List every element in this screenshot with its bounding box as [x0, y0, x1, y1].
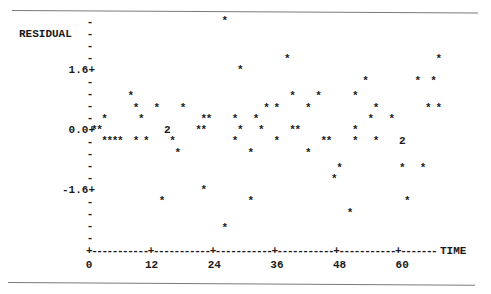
x-tick-label: 48 — [333, 260, 346, 271]
data-point: * — [174, 147, 181, 158]
data-point: * — [206, 113, 213, 124]
data-point: * — [248, 147, 255, 158]
data-point: * — [289, 91, 296, 102]
y-axis-tick-mark: - — [87, 149, 94, 160]
data-point: * — [435, 102, 442, 113]
y-axis-tick-mark: - — [87, 41, 94, 52]
data-point: * — [138, 113, 145, 124]
double-data-point: 2 — [399, 136, 406, 147]
data-point: * — [347, 207, 354, 218]
y-axis-tick-mark: - — [87, 161, 94, 172]
y-axis-tick-mark: - — [87, 197, 94, 208]
x-tick-label: 0 — [86, 260, 93, 271]
data-point: * — [232, 136, 239, 147]
top-rule — [12, 10, 478, 13]
data-point: * — [420, 162, 427, 173]
y-axis-tick-mark: - — [87, 77, 94, 88]
data-point: * — [331, 173, 338, 184]
data-point: * — [373, 136, 380, 147]
x-axis-line: +-----------+-----------+-----------+---… — [86, 246, 436, 257]
data-point: * — [425, 102, 432, 113]
x-tick-label: 24 — [208, 260, 221, 271]
data-point: * — [154, 102, 161, 113]
data-point: * — [399, 162, 406, 173]
data-point: * — [221, 222, 228, 233]
y-axis-tick-mark: - — [87, 113, 94, 124]
data-point: * — [352, 91, 359, 102]
y-axis-tick-mark: - — [87, 233, 94, 244]
data-point: * — [430, 76, 437, 87]
y-axis-label: RESIDUAL — [19, 29, 72, 40]
data-point: * — [352, 136, 359, 147]
data-point: * — [336, 162, 343, 173]
data-point: * — [237, 65, 244, 76]
data-point: * — [415, 76, 422, 87]
data-point: * — [368, 113, 375, 124]
data-point: * — [274, 102, 281, 113]
data-point: * — [263, 102, 270, 113]
data-point: * — [274, 136, 281, 147]
data-point: * — [133, 136, 140, 147]
data-point: * — [294, 125, 301, 136]
data-point: * — [237, 125, 244, 136]
data-point: * — [201, 185, 208, 196]
data-point: * — [388, 113, 395, 124]
x-tick-label: 36 — [270, 260, 283, 271]
y-axis-tick-mark: - — [87, 173, 94, 184]
y-tick-label: -1.6+ — [62, 185, 95, 196]
data-point: * — [180, 102, 187, 113]
y-axis-tick-mark: - — [87, 221, 94, 232]
data-point: * — [143, 136, 150, 147]
x-tick-label: 60 — [396, 260, 409, 271]
data-point: * — [362, 76, 369, 87]
data-point: * — [248, 196, 255, 207]
bottom-rule — [8, 282, 475, 286]
data-point: * — [117, 136, 124, 147]
y-axis-tick-mark: - — [87, 209, 94, 220]
data-point: * — [373, 102, 380, 113]
data-point: * — [258, 125, 265, 136]
y-axis-tick-mark: - — [87, 53, 94, 64]
y-axis-tick-mark: - — [87, 29, 94, 40]
data-point: * — [159, 196, 166, 207]
data-point: * — [201, 125, 208, 136]
data-point: * — [404, 196, 411, 207]
data-point: * — [315, 91, 322, 102]
y-tick-label: 1.6+ — [69, 65, 95, 76]
y-axis-tick-mark: - — [87, 17, 94, 28]
data-point: * — [305, 102, 312, 113]
y-axis-tick-mark: - — [87, 89, 94, 100]
data-point: * — [101, 113, 108, 124]
data-point: * — [435, 53, 442, 64]
y-axis-tick-mark: - — [87, 101, 94, 112]
data-point: * — [284, 53, 291, 64]
data-point: * — [305, 147, 312, 158]
data-point: * — [326, 136, 333, 147]
x-axis-label: TIME — [440, 246, 466, 257]
data-point: * — [221, 16, 228, 27]
y-axis-tick-mark: - — [87, 137, 94, 148]
x-tick-label: 12 — [145, 260, 158, 271]
